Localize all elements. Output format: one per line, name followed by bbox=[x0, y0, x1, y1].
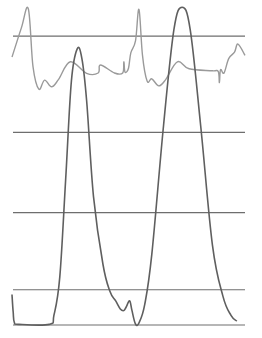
series bbox=[12, 7, 245, 325]
waveform-figure bbox=[0, 0, 262, 338]
series-line-ecg bbox=[12, 7, 245, 89]
series-line-pressure bbox=[12, 7, 237, 325]
gridlines bbox=[13, 36, 245, 325]
